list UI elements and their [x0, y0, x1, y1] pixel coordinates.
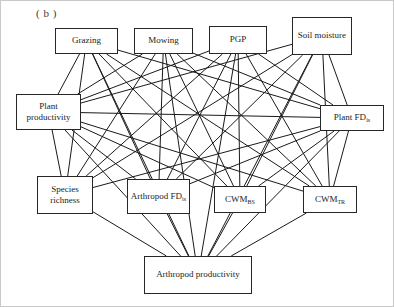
node-sublabel-arthropod_fd: is [182, 196, 186, 202]
node-pgp[interactable]: PGP [209, 26, 267, 54]
node-label-cwm_tr: CWMTR [313, 194, 347, 205]
node-cwm_bs[interactable]: CWMBS [214, 186, 266, 213]
edge-mowing-to-plant_fd [193, 53, 320, 105]
node-label-arthropod_productivity: Arthropod productivity [154, 269, 242, 280]
edge-grazing-to-plant_productivity [58, 54, 79, 94]
edge-plant_productivity-to-species_richness [52, 130, 61, 176]
node-plant_productivity[interactable]: Plant productivity [16, 94, 81, 130]
edge-plant_productivity-to-cwm_tr [81, 122, 303, 191]
edge-cwm_bs-to-arthropod_productivity [209, 213, 233, 256]
node-arthropod_fd[interactable]: Arthropod FDis [127, 179, 190, 214]
edge-pgp-to-arthropod_productivity [201, 54, 235, 256]
node-label-pgp: PGP [228, 34, 249, 45]
node-sublabel-cwm_tr: TR [337, 199, 345, 205]
edge-pgp-to-cwm_bs [238, 54, 240, 186]
edge-grazing-to-arthropod_productivity [93, 54, 189, 256]
node-label-species_richness: Species richness [38, 184, 92, 207]
node-mowing[interactable]: Mowing [134, 28, 193, 54]
node-arthropod_productivity[interactable]: Arthropod productivity [144, 256, 252, 294]
node-label-arthropod_fd: Arthropod FDis [129, 191, 188, 202]
node-species_richness[interactable]: Species richness [37, 176, 93, 214]
edge-plant_fd-to-cwm_tr [334, 131, 349, 186]
node-label-cwm_bs: CWMBS [223, 194, 257, 205]
edge-mowing-to-arthropod_productivity [165, 54, 195, 256]
edge-species_richness-to-arthropod_productivity [93, 212, 166, 256]
edge-cwm_tr-to-arthropod_productivity [231, 213, 306, 256]
node-soil_moisture[interactable]: Soil moisture [292, 17, 352, 55]
node-sublabel-plant_fd: is [366, 117, 370, 123]
node-sublabel-cwm_bs: BS [248, 199, 255, 205]
edge-soil_moisture-to-plant_fd [329, 55, 347, 105]
node-label-plant_fd: Plant FDis [332, 112, 372, 123]
node-label-plant_productivity: Plant productivity [17, 101, 80, 124]
node-label-grazing: Grazing [70, 35, 103, 46]
node-grazing[interactable]: Grazing [55, 28, 118, 54]
edge-arthropod_fd-to-arthropod_productivity [167, 214, 188, 256]
node-cwm_tr[interactable]: CWMTR [303, 186, 357, 213]
node-label-soil_moisture: Soil moisture [296, 30, 348, 41]
edge-mowing-to-cwm_tr [177, 54, 316, 186]
node-label-mowing: Mowing [146, 35, 181, 46]
node-plant_fd[interactable]: Plant FDis [320, 105, 384, 131]
